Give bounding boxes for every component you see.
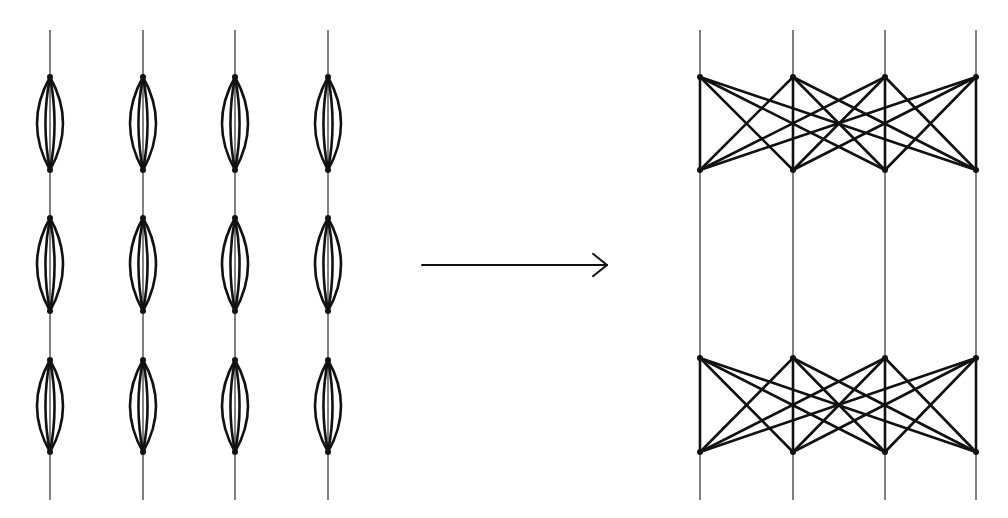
vertex	[140, 357, 146, 363]
left-column-1	[37, 30, 63, 500]
vertex	[47, 74, 53, 80]
left-column-2	[130, 30, 156, 500]
vertex	[140, 308, 146, 314]
bipartite-block-2	[697, 355, 979, 455]
vertex	[882, 74, 888, 80]
vertex	[325, 215, 331, 221]
vertex	[325, 357, 331, 363]
vertex	[47, 357, 53, 363]
vertex	[790, 449, 796, 455]
left-graph	[37, 30, 341, 500]
vertex	[697, 167, 703, 173]
bipartite-block-1	[697, 74, 979, 173]
vertex	[882, 355, 888, 361]
transformation-arrow-icon	[422, 254, 607, 276]
vertex	[882, 167, 888, 173]
vertex	[140, 167, 146, 173]
vertex	[790, 355, 796, 361]
vertex	[790, 167, 796, 173]
vertex	[790, 74, 796, 80]
right-graph	[697, 30, 979, 500]
left-column-3	[222, 30, 248, 500]
vertex	[232, 308, 238, 314]
vertex	[325, 449, 331, 455]
diagram-canvas	[0, 0, 1008, 518]
vertex	[697, 449, 703, 455]
vertex	[232, 357, 238, 363]
vertex	[232, 449, 238, 455]
vertex	[232, 215, 238, 221]
vertex	[973, 74, 979, 80]
vertex	[697, 355, 703, 361]
left-column-4	[315, 30, 341, 500]
vertex	[325, 308, 331, 314]
vertex	[232, 74, 238, 80]
vertex	[325, 74, 331, 80]
vertex	[973, 167, 979, 173]
vertex	[47, 215, 53, 221]
vertex	[47, 167, 53, 173]
vertex	[325, 167, 331, 173]
vertex	[973, 449, 979, 455]
vertex	[47, 308, 53, 314]
vertex	[140, 74, 146, 80]
vertex	[140, 449, 146, 455]
vertex	[697, 74, 703, 80]
vertex	[882, 449, 888, 455]
vertex	[232, 167, 238, 173]
vertex	[47, 449, 53, 455]
vertex	[973, 355, 979, 361]
vertex	[140, 215, 146, 221]
